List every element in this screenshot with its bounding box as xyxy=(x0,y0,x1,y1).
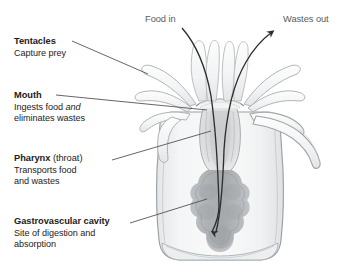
callout-tentacles-line-1: Capture prey xyxy=(14,48,66,60)
callout-mouth: Mouth Ingests food and eliminates wastes xyxy=(14,90,85,125)
callout-mouth-line-1-prefix: Ingests food xyxy=(14,102,65,112)
callout-gastrovascular: Gastrovascular cavity Site of digestion … xyxy=(14,216,110,251)
callout-mouth-italic-word: and xyxy=(65,102,80,112)
callout-tentacles-heading: Tentacles xyxy=(14,36,66,48)
callout-pharynx-heading-bold: Pharynx xyxy=(14,153,50,163)
callout-gastrovascular-line-1: Site of digestion and xyxy=(14,228,110,240)
callout-gastrovascular-line-2: absorption xyxy=(14,239,110,251)
callout-pharynx-heading-suffix: (throat) xyxy=(50,153,82,163)
callout-pharynx-line-1: Transports food xyxy=(14,165,82,177)
callout-pharynx-heading: Pharynx (throat) xyxy=(14,153,82,165)
callout-gastrovascular-heading: Gastrovascular cavity xyxy=(14,216,110,228)
callout-mouth-heading: Mouth xyxy=(14,90,85,102)
callout-pharynx-line-2: and wastes xyxy=(14,176,82,188)
callout-mouth-line-2: eliminates wastes xyxy=(14,113,85,125)
flow-label-wastes-out: Wastes out xyxy=(283,14,329,24)
callout-mouth-line-1: Ingests food and xyxy=(14,102,85,114)
leader-tentacles xyxy=(72,41,148,74)
flow-label-food-in: Food in xyxy=(145,14,176,24)
callout-pharynx: Pharynx (throat) Transports food and was… xyxy=(14,153,82,188)
callout-tentacles: Tentacles Capture prey xyxy=(14,36,66,59)
pharynx xyxy=(200,108,241,170)
anatomy-diagram: Tentacles Capture prey Mouth Ingests foo… xyxy=(0,0,352,276)
